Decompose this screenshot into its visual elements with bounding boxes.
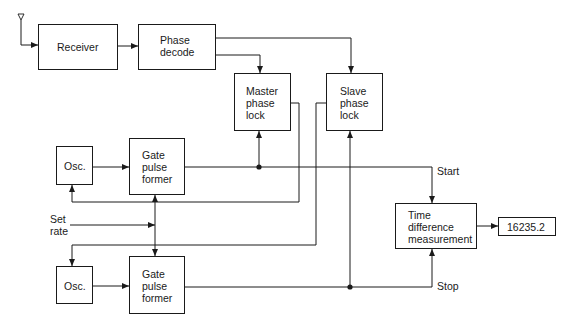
set-rate-label: Set rate	[50, 213, 68, 237]
master-phase-lock-block: Master phase lock	[234, 73, 291, 131]
stop-label: Stop	[437, 280, 459, 292]
junction-dot-upper	[256, 164, 261, 169]
master-phase-lock-label: Master phase lock	[246, 85, 278, 121]
gate-pulse-former-lower-block: Gate pulse former	[129, 256, 185, 314]
slave-phase-lock-block: Slave phase lock	[326, 73, 383, 131]
readout-value: 16235.2	[507, 221, 545, 233]
time-difference-measurement-block: Time difference measurement	[395, 203, 477, 249]
osc-upper-label: Osc.	[64, 160, 86, 172]
antenna-icon	[18, 14, 24, 45]
readout-display: 16235.2	[498, 217, 556, 236]
time-difference-label: Time difference measurement	[408, 209, 472, 245]
start-line	[185, 167, 432, 203]
gate-lower-label: Gate pulse former	[142, 268, 172, 304]
phase-decode-to-master	[216, 55, 260, 73]
receiver-block: Receiver	[38, 24, 118, 70]
gate-upper-label: Gate pulse former	[142, 149, 172, 185]
osc-upper-block: Osc.	[56, 146, 93, 185]
start-label: Start	[437, 165, 459, 177]
slave-phase-lock-label: Slave phase lock	[340, 85, 369, 121]
osc-lower-block: Osc.	[56, 266, 93, 304]
junction-dot-lower	[347, 284, 352, 289]
stop-line	[185, 249, 432, 287]
phase-decode-block: Phase decode	[138, 24, 216, 70]
receiver-label: Receiver	[57, 41, 98, 53]
phase-decode-label: Phase decode	[160, 34, 194, 58]
osc-lower-label: Osc.	[64, 280, 86, 292]
gate-pulse-former-upper-block: Gate pulse former	[129, 138, 185, 195]
